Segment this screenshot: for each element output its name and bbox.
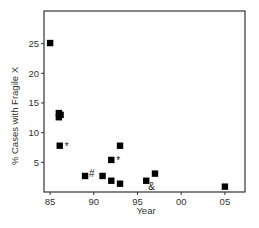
data-point-square xyxy=(47,40,53,46)
plot-frame xyxy=(44,11,245,192)
y-axis-title: % Cases with Fragile X xyxy=(9,66,20,165)
y-tick-label: 5 xyxy=(34,157,39,168)
data-point-square xyxy=(108,178,114,184)
y-tick-label: 15 xyxy=(28,97,39,108)
point-annotation: * xyxy=(65,141,69,152)
y-tick-label: 10 xyxy=(28,127,39,138)
point-annotation: * xyxy=(116,155,120,166)
data-point-square xyxy=(152,170,158,176)
data-point-square xyxy=(117,143,123,149)
y-tick-label: 25 xyxy=(28,38,39,49)
data-point-square xyxy=(56,114,62,120)
data-point-square xyxy=(222,183,228,189)
data-point-square xyxy=(108,157,114,163)
data-points: *#*& xyxy=(47,40,228,192)
data-point-square xyxy=(82,173,88,179)
data-point-square xyxy=(57,143,63,149)
x-tick-label: 00 xyxy=(176,196,187,207)
scatter-chart: 510152025 8590950005 *#*& Year % Cases w… xyxy=(0,0,259,228)
x-axis-title: Year xyxy=(136,205,155,216)
x-tick-label: 85 xyxy=(45,196,56,207)
data-point-square xyxy=(99,173,105,179)
x-tick-label: 05 xyxy=(220,196,231,207)
x-tick-label: 90 xyxy=(89,196,100,207)
y-tick-label: 20 xyxy=(28,68,39,79)
y-axis: 510152025 xyxy=(28,38,44,168)
point-annotation: # xyxy=(89,168,95,179)
point-annotation: & xyxy=(148,181,155,192)
data-point-square xyxy=(117,180,123,186)
plot-border xyxy=(44,11,245,192)
